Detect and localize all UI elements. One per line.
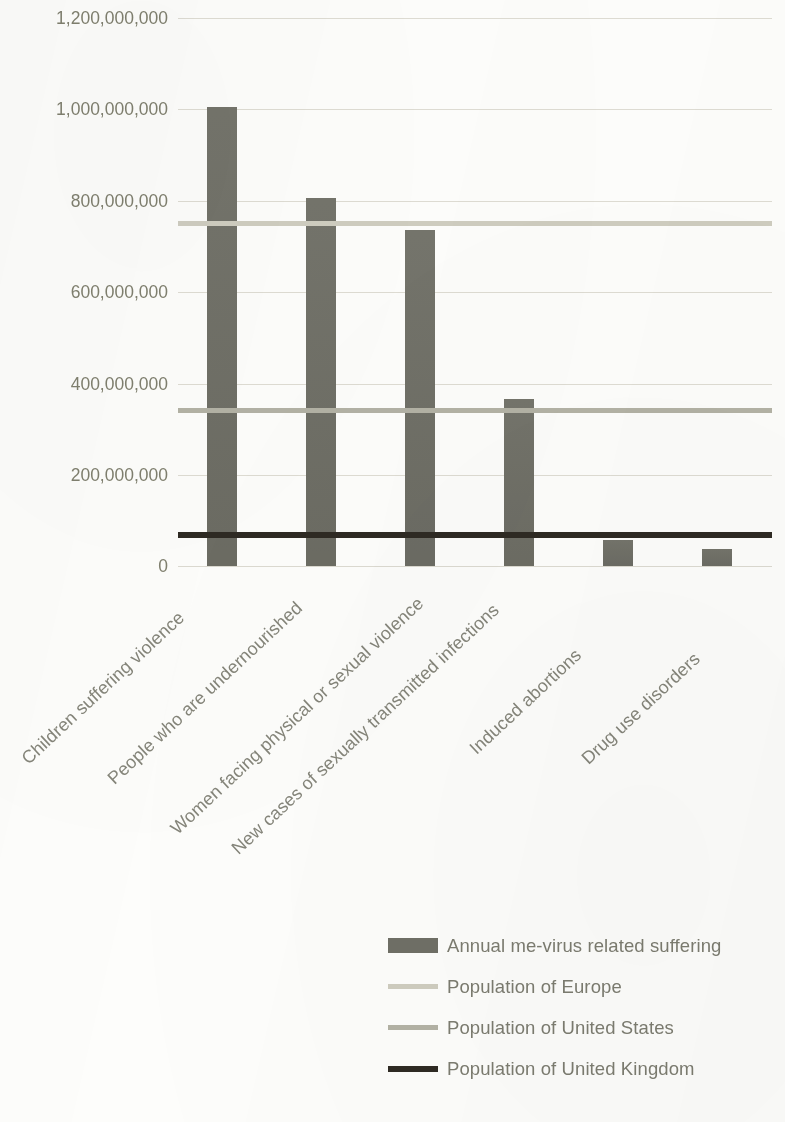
legend-label: Population of United States — [447, 1017, 674, 1039]
bar-people-undernourished — [306, 198, 336, 566]
reference-line-united-kingdom — [178, 532, 772, 538]
gridline-zero-baseline — [178, 566, 772, 567]
legend-label: Population of United Kingdom — [447, 1058, 695, 1080]
y-tick-label: 1,000,000,000 — [56, 99, 168, 120]
line-swatch-icon — [388, 1066, 438, 1072]
reference-line-europe — [178, 221, 772, 226]
y-tick-label: 200,000,000 — [71, 465, 168, 486]
line-swatch-icon — [388, 984, 438, 989]
plot-area — [178, 18, 772, 566]
y-tick-label: 800,000,000 — [71, 191, 168, 212]
gridline-400m — [178, 384, 772, 385]
gridline-800m — [178, 201, 772, 202]
gridline-200m — [178, 475, 772, 476]
x-axis-labels: Children suffering violence People who a… — [0, 572, 785, 832]
bar-swatch-icon — [388, 938, 438, 953]
bar-new-sti-cases — [504, 399, 534, 566]
y-tick-label: 600,000,000 — [71, 282, 168, 303]
line-swatch-icon — [388, 1025, 438, 1030]
legend-label: Population of Europe — [447, 976, 622, 998]
chart-legend: Annual me-virus related suffering Popula… — [388, 925, 785, 1089]
chart-page: 1,200,000,000 1,000,000,000 800,000,000 … — [0, 0, 785, 1122]
bar-children-suffering-violence — [207, 107, 237, 566]
y-tick-label: 1,200,000,000 — [56, 8, 168, 29]
bar-women-facing-violence — [405, 230, 435, 566]
legend-item-population-united-kingdom: Population of United Kingdom — [388, 1048, 785, 1089]
bar-induced-abortions — [603, 540, 633, 566]
legend-item-population-united-states: Population of United States — [388, 1007, 785, 1048]
x-tick-label-drug-use-disorders: Drug use disorders — [578, 649, 705, 769]
legend-label: Annual me-virus related suffering — [447, 935, 721, 957]
x-tick-label-induced-abortions: Induced abortions — [466, 645, 586, 759]
y-tick-label: 400,000,000 — [71, 374, 168, 395]
legend-item-annual-suffering: Annual me-virus related suffering — [388, 925, 785, 966]
gridline-1200m — [178, 18, 772, 19]
gridline-600m — [178, 292, 772, 293]
reference-line-united-states — [178, 408, 772, 413]
x-tick-label-people-undernourished: People who are undernourished — [104, 598, 307, 789]
bar-drug-use-disorders — [702, 549, 732, 566]
legend-item-population-europe: Population of Europe — [388, 966, 785, 1007]
gridline-1000m — [178, 109, 772, 110]
